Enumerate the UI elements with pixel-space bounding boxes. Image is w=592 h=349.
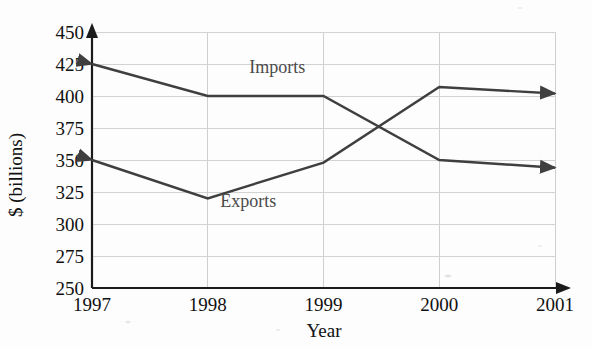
chart-container: 450425400375350325300275250 199719981999…: [0, 0, 592, 349]
y-tick-label-425: 425: [56, 54, 85, 75]
x-tick-label-1998: 1998: [189, 294, 227, 315]
series-label-imports: Imports: [249, 57, 305, 77]
x-axis-title: Year: [306, 320, 342, 341]
y-axis-tick-labels: 450425400375350325300275250: [56, 22, 85, 299]
x-tick-label-2001: 2001: [536, 294, 574, 315]
y-tick-label-325: 325: [56, 182, 85, 203]
y-tick-label-300: 300: [56, 214, 85, 235]
x-tick-label-1999: 1999: [305, 294, 343, 315]
y-tick-label-375: 375: [56, 118, 85, 139]
x-tick-label-1997: 1997: [73, 294, 111, 315]
series-label-exports: Exports: [220, 191, 276, 211]
y-tick-label-400: 400: [56, 86, 85, 107]
x-tick-label-2000: 2000: [420, 294, 458, 315]
y-tick-label-450: 450: [56, 22, 85, 43]
line-chart: 450425400375350325300275250 199719981999…: [0, 0, 592, 349]
y-tick-label-350: 350: [56, 150, 85, 171]
y-tick-label-275: 275: [56, 246, 85, 267]
y-axis-title: $ (billions): [5, 133, 27, 217]
